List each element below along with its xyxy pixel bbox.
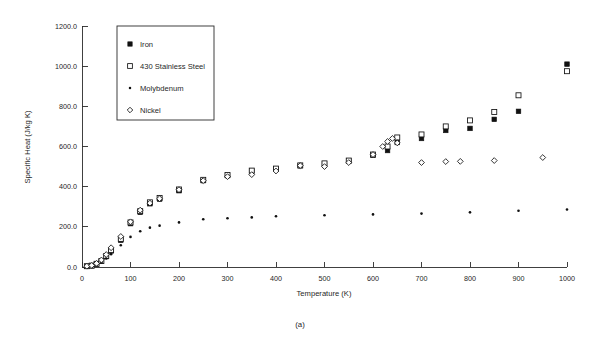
x-tick-label: 1000 (559, 274, 575, 283)
data-point (468, 118, 473, 123)
x-tick-label: 500 (319, 274, 331, 283)
legend-border (117, 26, 214, 120)
series-nickel (84, 136, 546, 270)
x-tick-label: 900 (513, 274, 525, 283)
y-tick-label: 1000.0 (55, 62, 77, 71)
x-tick-label: 700 (416, 274, 428, 283)
data-point (250, 216, 253, 219)
data-point (385, 139, 391, 145)
x-axis-title: Temperature (K) (297, 289, 352, 298)
data-point (516, 109, 521, 114)
data-point (516, 93, 521, 98)
x-tick-label: 200 (173, 274, 185, 283)
data-point (443, 159, 449, 165)
legend-label: Molybdenum (140, 84, 183, 93)
data-point (457, 158, 463, 164)
legend-marker-open-square (128, 64, 133, 69)
data-point (420, 212, 423, 215)
y-tick-label: 600.0 (59, 142, 77, 151)
data-point (419, 160, 425, 166)
y-tick-label: 200.0 (59, 222, 77, 231)
data-point (323, 214, 326, 217)
data-point (129, 236, 132, 239)
data-point (443, 124, 448, 129)
figure-container: 0.0200.0400.0600.0800.01000.01200.0 0100… (0, 0, 601, 344)
data-point (149, 226, 152, 229)
data-point (110, 253, 113, 256)
data-point (565, 62, 570, 67)
data-point (419, 132, 424, 137)
y-axis-ticks: 0.0200.0400.0600.0800.01000.01200.0 (55, 22, 88, 272)
data-point (275, 215, 278, 218)
specific-heat-scatter-chart: 0.0200.0400.0600.0800.01000.01200.0 0100… (0, 0, 601, 344)
x-tick-label: 0 (80, 274, 84, 283)
y-tick-label: 800.0 (59, 102, 77, 111)
data-point (492, 117, 497, 122)
x-tick-label: 300 (222, 274, 234, 283)
legend-marker-dot (129, 87, 131, 89)
data-point (566, 208, 569, 211)
data-point (158, 224, 161, 227)
data-point (565, 69, 570, 74)
data-point (469, 211, 472, 214)
x-axis-ticks: 01002003004005006007008009001000 (80, 262, 575, 283)
figure-caption: (a) (295, 320, 305, 329)
data-point (540, 155, 546, 161)
data-point (372, 213, 375, 216)
series-molybdenum (86, 208, 569, 268)
x-tick-label: 100 (125, 274, 137, 283)
data-point (178, 221, 181, 224)
data-point (139, 230, 142, 233)
y-tick-label: 400.0 (59, 182, 77, 191)
data-point (517, 209, 520, 212)
y-axis-title: Specific Heat (J/kg K) (23, 110, 32, 183)
x-tick-label: 400 (270, 274, 282, 283)
legend-label: 430 Stainless Steel (140, 62, 205, 71)
data-point (468, 126, 473, 131)
data-point (120, 244, 123, 247)
y-tick-label: 1200.0 (55, 22, 77, 31)
legend-label: Iron (140, 40, 153, 49)
y-tick-label: 0.0 (67, 263, 77, 272)
data-point (491, 158, 497, 164)
chart-legend: Iron430 Stainless SteelMolybdenumNickel (117, 26, 214, 120)
legend-marker-filled-square (128, 42, 132, 46)
data-point (492, 109, 497, 114)
x-tick-label: 600 (367, 274, 379, 283)
legend-label: Nickel (140, 106, 161, 115)
data-point (395, 135, 400, 140)
data-point (226, 217, 229, 220)
data-point (202, 218, 205, 221)
x-tick-label: 800 (464, 274, 476, 283)
